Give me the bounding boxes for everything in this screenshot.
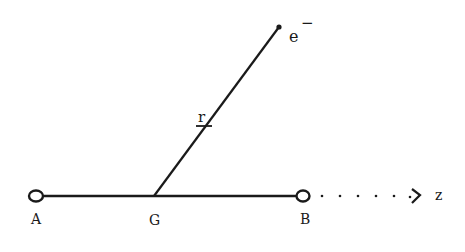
electron-dot [276, 24, 281, 29]
label-electron: e [289, 27, 298, 46]
label-r: r [198, 108, 206, 126]
label-a: A [30, 211, 42, 227]
diagram-canvas: A G B z r e − [0, 0, 465, 252]
z-arrowhead-icon [412, 189, 420, 203]
label-electron-charge: − [301, 14, 314, 32]
node-a-circle [29, 191, 43, 202]
label-g: G [149, 212, 160, 228]
node-b-circle [297, 191, 310, 202]
z-axis-dotted-extension [321, 195, 412, 199]
label-b: B [300, 211, 310, 227]
radius-line-r [154, 27, 279, 196]
label-z: z [435, 187, 442, 203]
